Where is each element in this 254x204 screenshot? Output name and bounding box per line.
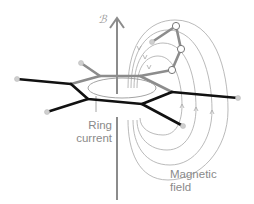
atom-lower-right: [181, 124, 186, 129]
atom-upper-left: [79, 61, 84, 66]
atom-chain-end: [150, 40, 155, 45]
b-field-axis: [110, 18, 124, 200]
magnetic-field-lines: [128, 20, 228, 180]
atom-lower-left: [45, 110, 50, 115]
ring-current-label: Ring current: [66, 119, 112, 145]
magnetic-field-label: Magnetic field: [170, 168, 217, 194]
atom-left: [15, 77, 20, 82]
ring-current-ellipse: [88, 78, 156, 98]
front-bonds: [17, 79, 238, 126]
ring-current-label-line1: Ring: [66, 119, 112, 132]
ring-current-label-line2: current: [66, 132, 112, 145]
field-symbol-label: ℬ: [98, 13, 107, 26]
atoms: [15, 40, 241, 129]
atom-right: [236, 96, 241, 101]
back-bonds: [71, 26, 181, 92]
magnetic-field-label-line1: Magnetic: [170, 168, 217, 181]
magnetic-field-label-line2: field: [170, 181, 217, 194]
